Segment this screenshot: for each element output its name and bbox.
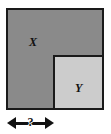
nested-squares-figure: X Y ? (0, 0, 111, 134)
inner-square-label: Y (75, 82, 82, 94)
outer-square-label: X (29, 36, 37, 48)
dimension-annotation: ? (7, 116, 54, 130)
dimension-label: ? (7, 115, 54, 129)
